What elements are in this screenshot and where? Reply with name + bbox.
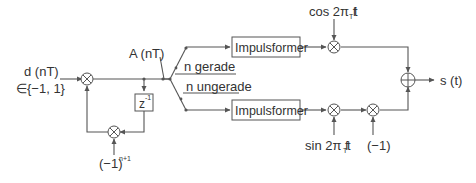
input-alphabet-label: ∈{−1, 1}	[16, 81, 66, 96]
multiplier-icon-feedback	[108, 126, 120, 138]
multiplier-icon-sin	[328, 104, 340, 116]
delay-exponent: -1	[145, 94, 151, 101]
cos-suffix: t	[354, 4, 358, 19]
adder-icon	[401, 73, 415, 87]
node-a-label: A (nT)	[129, 46, 164, 61]
input-signal-label: d (nT)	[24, 64, 59, 79]
block-diagram: z -1 Impulsformer Impulsformer d (nT) ∈{…	[0, 0, 476, 183]
multiplier-icon-cos	[328, 41, 340, 53]
impulsformer-block-upper: Impulsformer	[232, 37, 308, 57]
multiplier-icon-inverter	[367, 104, 379, 116]
delay-block: z -1	[135, 94, 153, 111]
impulsformer-block-lower: Impulsformer	[232, 100, 308, 120]
output-signal-label: s (t)	[440, 73, 462, 88]
switch-even-label: n gerade	[184, 59, 235, 74]
sin-suffix: t	[347, 138, 351, 153]
inverter-label: (−1)	[367, 138, 390, 153]
switch-odd-label: n ungerade	[186, 79, 252, 94]
impulsformer-upper-label: Impulsformer	[235, 41, 308, 55]
multiplier-icon-input	[81, 73, 93, 85]
impulsformer-lower-label: Impulsformer	[235, 104, 308, 118]
feedback-factor-exponent: n+1	[119, 155, 131, 162]
sin-carrier-label: sin 2π f T t	[305, 138, 351, 154]
cos-carrier-label: cos 2π f T t	[309, 4, 358, 20]
